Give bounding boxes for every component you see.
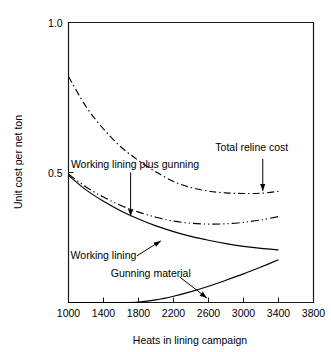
series-line-working-lining: [69, 176, 279, 250]
x-tick-label: 1000: [57, 307, 81, 319]
chart-figure: 10001400180022002600300034003800 0.51.0 …: [0, 0, 331, 352]
annotation-arrowhead-gunning-material: [200, 292, 207, 298]
x-tick-label: 2600: [197, 307, 221, 319]
annotation-label-total-reline-cost: Total reline cost: [215, 141, 288, 153]
x-tick-label: 1400: [92, 307, 116, 319]
x-tick-label: 2200: [162, 307, 186, 319]
y-axis-tick-labels: 0.51.0: [48, 17, 63, 179]
series-line-total-reline-cost: [69, 77, 279, 194]
y-tick-label: 0.5: [48, 167, 63, 179]
x-axis-title: Heats in lining campaign: [133, 334, 248, 346]
y-tick-label: 1.0: [48, 17, 63, 29]
annotation-arrowhead-total-reline-cost: [260, 184, 265, 191]
line-chart: 10001400180022002600300034003800 0.51.0 …: [0, 0, 331, 352]
x-tick-label: 1800: [127, 307, 151, 319]
annotation-label-working-lining: Working lining: [71, 249, 137, 261]
x-axis-tick-labels: 10001400180022002600300034003800: [57, 307, 326, 319]
x-axis-ticks: [104, 298, 279, 303]
x-tick-label: 3000: [232, 307, 256, 319]
annotation-label-gunning-material: Gunning material: [111, 267, 191, 279]
annotation-label-working-lining-plus-gunning: Working lining plus gunning: [71, 158, 199, 170]
x-tick-label: 3800: [302, 307, 326, 319]
annotation-arrowhead-working-lining: [154, 241, 161, 247]
x-tick-label: 3400: [267, 307, 291, 319]
annotation-labels: Total reline costWorking lining plus gun…: [71, 141, 289, 279]
y-axis-title: Unit cost per net ton: [12, 115, 24, 209]
